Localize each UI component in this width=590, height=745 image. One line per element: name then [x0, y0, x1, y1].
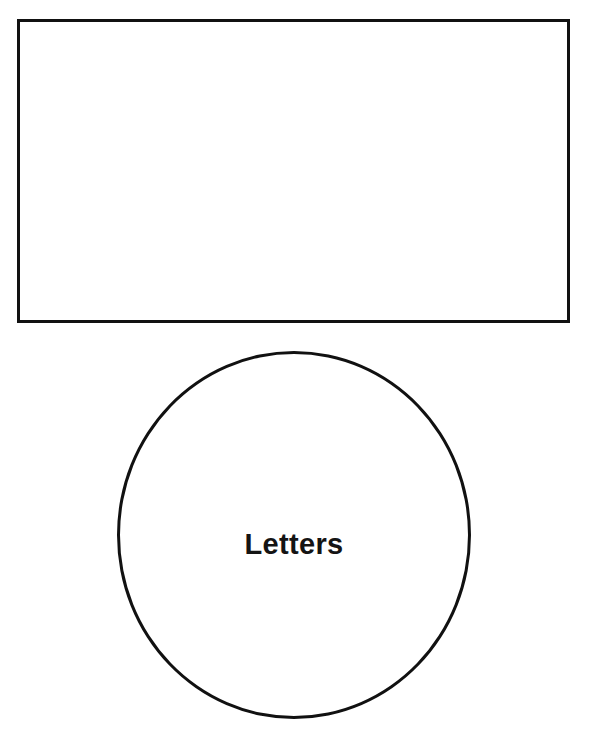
category-circle-label: Letters	[120, 530, 468, 559]
answer-box-rectangle[interactable]	[17, 19, 570, 323]
category-circle[interactable]: Letters	[117, 351, 471, 719]
worksheet-page: Letters	[0, 0, 590, 745]
